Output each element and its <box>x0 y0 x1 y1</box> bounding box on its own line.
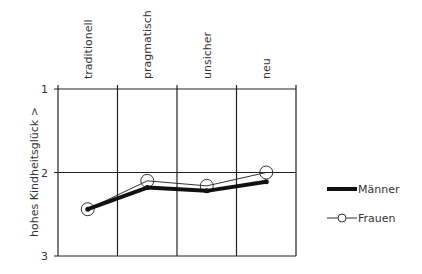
data-point-marker <box>85 207 90 212</box>
data-point-marker <box>264 179 269 184</box>
line-chart: traditionellpragmatischunsicherneu 123 h… <box>0 0 422 274</box>
legend-marker <box>340 187 344 191</box>
data-point-marker <box>204 188 209 193</box>
category-labels: traditionellpragmatischunsicherneu <box>82 10 274 79</box>
y-tick-label: 2 <box>41 167 48 180</box>
y-axis-ticks: 123 <box>41 83 48 263</box>
category-label: neu <box>260 58 273 79</box>
chart-legend: MännerFrauen <box>327 183 400 225</box>
legend-marker <box>338 214 346 222</box>
data-point-marker <box>145 185 150 190</box>
y-axis-title: hohes Kindheitsglück > <box>28 107 41 237</box>
legend-label: Männer <box>358 183 400 196</box>
legend-label: Frauen <box>358 212 396 225</box>
y-tick-label: 1 <box>41 83 48 96</box>
y-tick-label: 3 <box>41 250 48 263</box>
category-label: unsicher <box>201 31 214 79</box>
category-label: traditionell <box>82 19 95 79</box>
category-label: pragmatisch <box>141 10 154 79</box>
